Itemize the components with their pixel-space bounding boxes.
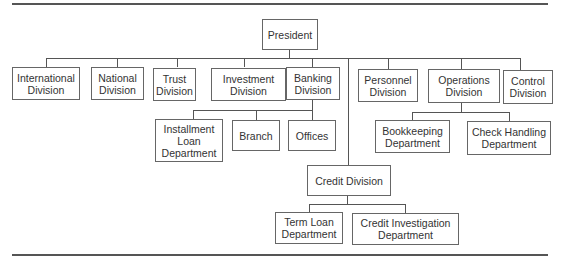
connector: [388, 58, 389, 69]
connector: [520, 58, 521, 70]
node-credit-division: Credit Division: [307, 165, 391, 196]
connector: [312, 58, 313, 67]
node-offices: Offices: [288, 120, 336, 151]
node-trust-division: Trust Division: [153, 68, 196, 101]
connector: [46, 58, 47, 67]
connector: [312, 110, 313, 120]
connector: [412, 112, 509, 113]
node-banking-division: Banking Division: [286, 67, 340, 100]
connector: [244, 58, 245, 67]
node-control-division: Control Division: [503, 70, 553, 104]
node-credit-investigation-department: Credit Investigation Department: [352, 213, 459, 245]
connector: [509, 112, 510, 121]
connector: [177, 58, 178, 67]
connector: [193, 110, 194, 119]
node-branch: Branch: [232, 120, 280, 151]
connector: [347, 195, 348, 204]
connector: [312, 100, 313, 110]
connector: [309, 204, 405, 205]
node-president: President: [262, 19, 318, 50]
connector: [348, 58, 349, 166]
node-international-division: International Division: [12, 67, 80, 100]
connector: [289, 49, 290, 58]
node-bookkeeping-department: Bookkeeping Department: [375, 120, 450, 153]
node-national-division: National Division: [91, 67, 144, 100]
bottom-rule: [12, 254, 548, 256]
connector: [461, 103, 462, 112]
node-operations-division: Operations Division: [428, 69, 500, 103]
connector: [461, 58, 462, 69]
node-personnel-division: Personnel Division: [358, 69, 418, 102]
node-investment-division: Investment Division: [211, 68, 286, 101]
connector: [412, 112, 413, 120]
connector: [256, 110, 257, 120]
connector: [193, 110, 313, 111]
top-rule: [12, 3, 548, 5]
connector: [309, 204, 310, 212]
connector: [405, 204, 406, 213]
connector: [117, 58, 118, 67]
node-installment-loan-department: Installment Loan Department: [155, 119, 223, 162]
node-term-loan-department: Term Loan Department: [275, 212, 343, 244]
node-check-handling-department: Check Handling Department: [467, 121, 551, 155]
